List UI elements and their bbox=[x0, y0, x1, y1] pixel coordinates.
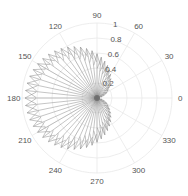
theta-tick-label: 60 bbox=[134, 22, 143, 31]
compass-arrow bbox=[97, 98, 110, 126]
theta-tick-label: 330 bbox=[162, 136, 176, 145]
radial-tick-label: 0.4 bbox=[105, 65, 117, 74]
compass-arrow bbox=[33, 70, 97, 98]
theta-tick-label: 300 bbox=[132, 166, 146, 175]
theta-tick-label: 270 bbox=[90, 177, 104, 186]
compass-arrow bbox=[33, 98, 97, 126]
origin-cluster bbox=[94, 95, 100, 101]
theta-tick-label: 210 bbox=[18, 136, 32, 145]
polar-chart: 0306090120150180210240270300330 0.20.40.… bbox=[0, 0, 188, 196]
theta-tick-label: 180 bbox=[7, 94, 21, 103]
radial-tick-label: 0.8 bbox=[110, 35, 122, 44]
radial-tick-label: 0.2 bbox=[103, 79, 115, 88]
theta-tick-label: 30 bbox=[165, 52, 174, 61]
theta-tick-label: 240 bbox=[49, 166, 63, 175]
theta-tick-label: 90 bbox=[93, 11, 102, 20]
radial-tick-label: 0.6 bbox=[108, 50, 120, 59]
theta-tick-label: 0 bbox=[178, 94, 183, 103]
compass-series bbox=[25, 47, 111, 150]
theta-tick-label: 120 bbox=[49, 22, 63, 31]
radial-tick-label: 1 bbox=[113, 20, 118, 29]
theta-tick-label: 150 bbox=[18, 52, 32, 61]
